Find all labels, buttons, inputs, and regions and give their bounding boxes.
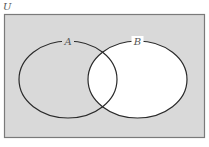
set-b-label: B xyxy=(133,36,141,47)
set-a-label: A xyxy=(63,36,71,47)
universe-label: U xyxy=(3,1,12,12)
venn-diagram: U A B xyxy=(0,0,209,147)
